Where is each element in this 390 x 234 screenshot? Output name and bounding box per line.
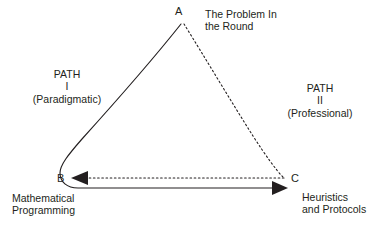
path-2-label: PATH II (Professional) bbox=[268, 82, 372, 119]
path-1-arrowhead-icon bbox=[272, 181, 288, 195]
vertex-label-c: C bbox=[291, 172, 299, 185]
vertex-label-a: A bbox=[175, 5, 183, 18]
path-2-arrowhead-icon bbox=[71, 171, 88, 185]
vertex-caption-b: Mathematical Programming bbox=[12, 192, 75, 217]
diagram-canvas: A B C The Problem In the Round Mathemati… bbox=[0, 0, 390, 234]
vertex-caption-c: Heuristics and Protocols bbox=[302, 191, 366, 216]
path-1-label: PATH I (Paradigmatic) bbox=[18, 68, 116, 105]
vertex-caption-a: The Problem In the Round bbox=[205, 8, 277, 33]
vertex-label-b: B bbox=[57, 172, 65, 185]
path-1-solid-stroke bbox=[60, 24, 281, 188]
